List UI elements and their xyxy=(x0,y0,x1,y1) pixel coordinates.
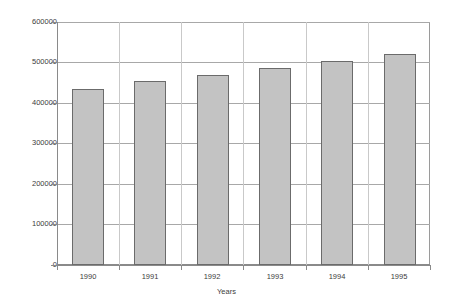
y-axis-tick-label: 100000 xyxy=(9,220,57,228)
x-axis-tick-mark xyxy=(430,265,431,270)
x-axis-tick-label: 1992 xyxy=(181,272,243,281)
x-axis-tick-label: 1994 xyxy=(306,272,368,281)
y-axis-tick-label: 600000 xyxy=(9,18,57,26)
x-axis-line xyxy=(57,265,431,266)
x-axis-tick-mark xyxy=(243,265,244,270)
x-axis-tick-mark xyxy=(119,265,120,270)
x-axis-tick-mark xyxy=(306,265,307,270)
y-axis-tick-label: 300000 xyxy=(9,139,57,147)
x-axis-tick-mark xyxy=(368,265,369,270)
category-separator xyxy=(243,22,244,265)
bar-chart: 600000 500000 400000 300000 200000 10000… xyxy=(0,0,453,305)
bar-1991 xyxy=(134,81,166,265)
bar-1994 xyxy=(321,61,353,265)
x-axis-tick-label: 1990 xyxy=(57,272,119,281)
x-axis-tick-mark xyxy=(57,265,58,270)
y-axis-line xyxy=(57,22,58,266)
y-axis-tick-label: 0 xyxy=(9,261,57,269)
x-axis-tick-label: 1995 xyxy=(368,272,430,281)
category-separator xyxy=(306,22,307,265)
y-axis-tick-label: 500000 xyxy=(9,58,57,66)
bar-1990 xyxy=(72,89,104,265)
category-separator xyxy=(119,22,120,265)
bar-1992 xyxy=(197,75,229,265)
x-axis-tick-mark xyxy=(181,265,182,270)
x-axis-title: Years xyxy=(0,287,453,296)
y-axis-tick-label: 200000 xyxy=(9,180,57,188)
category-separator xyxy=(181,22,182,265)
x-axis-tick-label: 1991 xyxy=(119,272,181,281)
bar-1995 xyxy=(384,54,416,265)
category-separator xyxy=(368,22,369,265)
plot-area xyxy=(57,22,430,265)
bar-1993 xyxy=(259,68,291,265)
x-axis-tick-label: 1993 xyxy=(244,272,306,281)
y-axis-tick-label: 400000 xyxy=(9,99,57,107)
